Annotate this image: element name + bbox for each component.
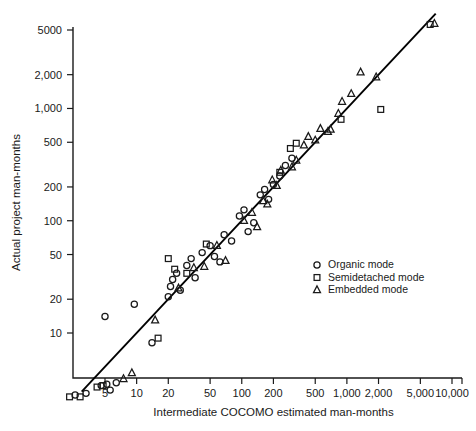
data-point-circle <box>207 243 213 249</box>
data-point-square <box>155 335 161 341</box>
x-tick-label: 10 <box>131 387 143 399</box>
y-axis-title: Actual project man-months <box>10 134 22 271</box>
x-axis-ticks: 51020501002005001,0002,0005,00010,000 <box>102 378 469 399</box>
x-tick-label: 2,000 <box>365 387 393 399</box>
series-square <box>67 22 433 400</box>
y-axis-ticks: 1020501002005001,0002,0005000 <box>34 24 73 339</box>
y-tick-label: 1,000 <box>34 102 62 114</box>
data-point-square <box>314 275 320 281</box>
data-point-square <box>165 256 171 262</box>
data-point-triangle <box>190 264 197 271</box>
data-point-circle <box>236 213 242 219</box>
legend: Organic modeSemidetached modeEmbedded mo… <box>314 258 425 295</box>
data-point-square <box>378 107 384 113</box>
data-point-triangle <box>314 286 321 293</box>
data-point-circle <box>192 275 198 281</box>
y-tick-label: 2,000 <box>34 69 62 81</box>
data-point-circle <box>184 262 190 268</box>
data-point-circle <box>131 301 137 307</box>
x-tick-label: 5,000 <box>407 387 435 399</box>
legend-label-triangle: Embedded mode <box>328 283 408 295</box>
x-tick-label: 100 <box>233 387 251 399</box>
data-point-triangle <box>335 110 342 117</box>
x-tick-label: 1,000 <box>333 387 361 399</box>
y-tick-label: 200 <box>44 181 62 193</box>
data-point-circle <box>314 262 320 268</box>
x-tick-label: 500 <box>306 387 324 399</box>
data-point-circle <box>221 232 227 238</box>
data-point-triangle <box>300 141 307 148</box>
data-point-triangle <box>348 90 355 97</box>
data-point-square <box>184 270 190 276</box>
data-point-circle <box>199 250 205 256</box>
data-point-circle <box>170 276 176 282</box>
data-point-triangle <box>431 20 438 27</box>
data-point-triangle <box>248 209 255 216</box>
data-point-circle <box>241 207 247 213</box>
data-point-circle <box>174 270 180 276</box>
legend-label-circle: Organic mode <box>328 258 394 270</box>
data-point-triangle <box>317 125 324 132</box>
data-point-circle <box>83 390 89 396</box>
y-tick-label: 20 <box>50 293 62 305</box>
data-point-circle <box>282 162 288 168</box>
data-point-circle <box>245 229 251 235</box>
data-point-circle <box>113 380 119 386</box>
data-point-triangle <box>327 125 334 132</box>
x-axis-title: Intermediate COCOMO estimated man-months <box>153 406 394 418</box>
data-point-circle <box>262 186 268 192</box>
y-tick-label: 10 <box>50 327 62 339</box>
data-point-square <box>293 140 299 146</box>
legend-entry-square: Semidetached mode <box>314 271 424 283</box>
data-point-circle <box>149 340 155 346</box>
legend-entry-triangle: Embedded mode <box>314 283 409 295</box>
data-point-triangle <box>357 68 364 75</box>
data-point-circle <box>167 283 173 289</box>
scatter-plot: 51020501002005001,0002,0005,00010,000102… <box>0 0 476 431</box>
data-point-triangle <box>305 133 312 140</box>
chart-figure: 51020501002005001,0002,0005,00010,000102… <box>0 0 476 431</box>
x-tick-label: 50 <box>204 387 216 399</box>
legend-label-square: Semidetached mode <box>328 271 424 283</box>
legend-entry-circle: Organic mode <box>314 258 394 270</box>
y-tick-label: 500 <box>44 136 62 148</box>
data-point-triangle <box>339 98 346 105</box>
reference-line <box>82 14 436 392</box>
y-tick-label: 5000 <box>38 24 62 36</box>
x-tick-label: 20 <box>162 387 174 399</box>
x-tick-label: 10,000 <box>435 387 469 399</box>
data-point-triangle <box>222 257 229 264</box>
data-point-triangle <box>254 223 261 230</box>
data-point-square <box>287 146 293 152</box>
y-tick-label: 100 <box>44 215 62 227</box>
series-triangle <box>120 20 438 382</box>
data-point-square <box>203 241 209 247</box>
data-point-circle <box>102 313 108 319</box>
data-point-circle <box>188 256 194 262</box>
y-tick-label: 50 <box>50 249 62 261</box>
data-point-triangle <box>128 369 135 376</box>
data-point-circle <box>211 253 217 259</box>
data-point-circle <box>228 238 234 244</box>
data-point-circle <box>277 173 283 179</box>
x-tick-label: 200 <box>264 387 282 399</box>
